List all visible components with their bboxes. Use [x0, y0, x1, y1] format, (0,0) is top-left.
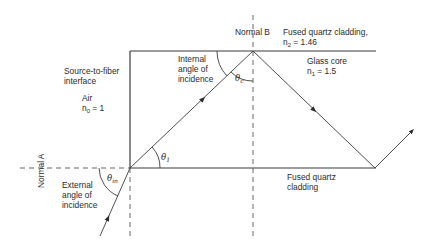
theta-c-label: θc	[235, 73, 244, 86]
air-label: Air	[82, 93, 92, 103]
n-value: = 1.5	[315, 66, 336, 76]
fiber-optic-diagram	[0, 0, 433, 249]
core-index: n1 = 1.5	[307, 66, 336, 79]
core-label: Glass core	[307, 56, 347, 66]
air-index: n0 = 1	[82, 103, 104, 116]
theta-subscript: in	[112, 177, 118, 184]
incident-ray-arrow	[100, 218, 108, 236]
source-interface-label-2: interface	[64, 76, 96, 86]
cladding-bottom-label-2: cladding	[287, 182, 318, 192]
cladding-top-label: Fused quartz cladding,	[283, 27, 368, 37]
cladding-bottom-label-1: Fused quartz	[287, 172, 336, 182]
theta-1-label: θ1	[161, 152, 170, 165]
reflected-ray-arrow	[253, 51, 314, 110]
external-angle-label-1: External	[62, 180, 93, 190]
internal-angle-label-3: incidence	[178, 74, 213, 84]
theta-in-label: θin	[107, 173, 118, 186]
n-value: = 1.46	[291, 37, 317, 47]
external-angle-label-3: incidence	[62, 200, 97, 210]
exit-ray	[375, 131, 412, 168]
theta-1-arc	[152, 147, 160, 168]
theta-subscript: c	[240, 77, 243, 84]
source-interface-label-1: Source-to-fiber	[64, 66, 119, 76]
external-angle-label-2: angle of	[62, 190, 92, 200]
internal-angle-arc	[217, 51, 227, 76]
normal-a-label: Normal A	[36, 154, 46, 188]
internal-angle-label-2: angle of	[178, 64, 208, 74]
internal-angle-label-1: Internal	[178, 54, 206, 64]
normal-b-label: Normal B	[235, 27, 270, 37]
n-value: = 1	[90, 103, 104, 113]
cladding-top-index: n2 = 1.46	[283, 37, 317, 50]
theta-subscript: 1	[166, 156, 170, 163]
